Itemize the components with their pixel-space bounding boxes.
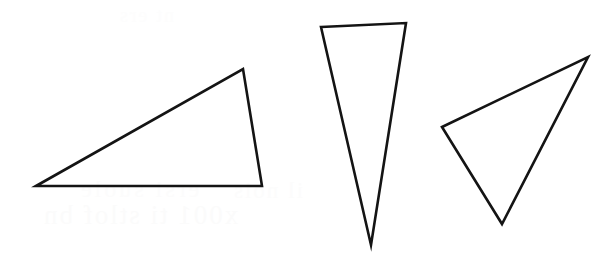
triangle-left-shape bbox=[36, 69, 262, 186]
figure-root: x001 ti stlof bn ersi suole il nois nt e… bbox=[0, 0, 616, 268]
triangle-middle-shape bbox=[321, 23, 406, 245]
triangle-right-shape bbox=[442, 57, 588, 224]
triangles-diagram bbox=[0, 0, 616, 268]
